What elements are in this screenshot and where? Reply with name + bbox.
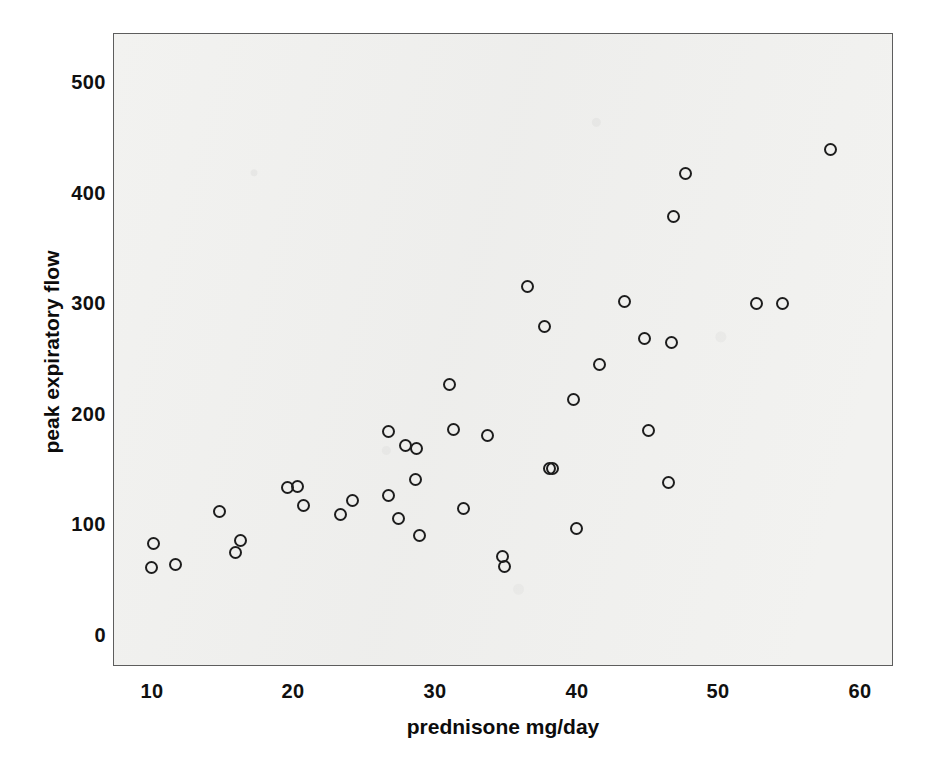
y-tick-label: 400 bbox=[16, 182, 106, 205]
x-tick-mark bbox=[0, 48, 2, 57]
data-point-marker bbox=[410, 442, 423, 455]
data-point-marker bbox=[382, 425, 395, 438]
x-tick-label: 10 bbox=[122, 680, 182, 703]
data-point-marker bbox=[543, 462, 556, 475]
data-point-marker bbox=[443, 378, 456, 391]
x-tick-mark bbox=[0, 30, 2, 39]
data-point-marker bbox=[334, 508, 347, 521]
y-axis-title: peak expiratory flow bbox=[40, 32, 64, 672]
data-point-marker bbox=[169, 558, 182, 571]
data-point-marker bbox=[521, 280, 534, 293]
y-tick-label: 100 bbox=[16, 513, 106, 536]
y-tick-label: 500 bbox=[16, 71, 106, 94]
data-point-marker bbox=[409, 473, 422, 486]
data-point-marker bbox=[662, 476, 675, 489]
x-tick-mark bbox=[0, 12, 2, 21]
x-axis-title: prednisone mg/day bbox=[113, 715, 893, 739]
data-point-marker bbox=[665, 336, 678, 349]
x-tick-label: 50 bbox=[688, 680, 748, 703]
data-point-marker bbox=[147, 537, 160, 550]
data-point-marker bbox=[570, 522, 583, 535]
data-point-marker bbox=[824, 143, 837, 156]
data-point-marker bbox=[638, 332, 651, 345]
scatter-plot-figure: peak expiratory flow prednisone mg/day 5… bbox=[0, 0, 944, 777]
data-point-marker bbox=[213, 505, 226, 518]
y-tick-label: 0 bbox=[16, 624, 106, 647]
data-point-marker bbox=[392, 512, 405, 525]
data-point-marker bbox=[346, 494, 359, 507]
data-point-marker bbox=[567, 393, 580, 406]
data-point-marker bbox=[642, 424, 655, 437]
x-tick-label: 30 bbox=[405, 680, 465, 703]
data-point-marker bbox=[229, 546, 242, 559]
y-tick-label: 300 bbox=[16, 292, 106, 315]
data-point-marker bbox=[481, 429, 494, 442]
x-tick-mark bbox=[0, 39, 2, 48]
data-point-marker bbox=[667, 210, 680, 223]
x-tick-label: 40 bbox=[547, 680, 607, 703]
data-point-marker bbox=[291, 480, 304, 493]
data-point-marker bbox=[382, 489, 395, 502]
y-tick-label: 200 bbox=[16, 403, 106, 426]
data-point-marker bbox=[234, 534, 247, 547]
data-point-marker bbox=[750, 297, 763, 310]
data-point-marker bbox=[457, 502, 470, 515]
data-point-marker bbox=[297, 499, 310, 512]
x-tick-label: 20 bbox=[263, 680, 323, 703]
x-tick-mark bbox=[0, 21, 2, 30]
plot-data-area bbox=[113, 33, 893, 666]
data-point-marker bbox=[618, 295, 631, 308]
data-point-marker bbox=[145, 561, 158, 574]
data-point-marker bbox=[593, 358, 606, 371]
x-tick-label: 60 bbox=[830, 680, 890, 703]
data-point-marker bbox=[776, 297, 789, 310]
data-point-marker bbox=[538, 320, 551, 333]
data-point-marker bbox=[498, 560, 511, 573]
data-point-marker bbox=[413, 529, 426, 542]
x-tick-mark bbox=[0, 57, 2, 66]
data-point-marker bbox=[679, 167, 692, 180]
data-point-marker bbox=[447, 423, 460, 436]
